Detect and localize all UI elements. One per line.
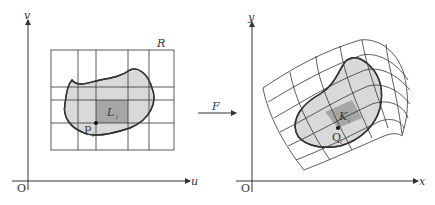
change-of-variables-diagram: v u O R L i P i F (0, 0, 435, 205)
origin-right-label: O (241, 182, 250, 195)
mapping-F: F (198, 100, 236, 113)
region-R-label: R (156, 37, 165, 50)
point-Q-subscript: i (340, 138, 342, 145)
axis-v-label: v (24, 9, 31, 22)
point-P-subscript: i (92, 131, 94, 138)
cell-K-label: K (338, 110, 348, 123)
grid-R (51, 50, 174, 150)
point-P-label: P (84, 124, 92, 137)
axis-u-label: u (191, 175, 198, 188)
point-Qi (336, 126, 340, 130)
axis-y-label: y (247, 11, 255, 24)
right-panel: y x O K i Q i (236, 11, 426, 195)
point-Pi (94, 121, 98, 125)
origin-left-label: O (17, 182, 26, 195)
cell-L-label: L (106, 106, 114, 119)
cell-K-subscript: i (348, 117, 350, 124)
left-panel: v u O R L i P i (12, 9, 198, 195)
cell-L-subscript: i (116, 113, 118, 120)
mapping-label: F (211, 100, 220, 113)
axis-x-label: x (419, 175, 426, 188)
